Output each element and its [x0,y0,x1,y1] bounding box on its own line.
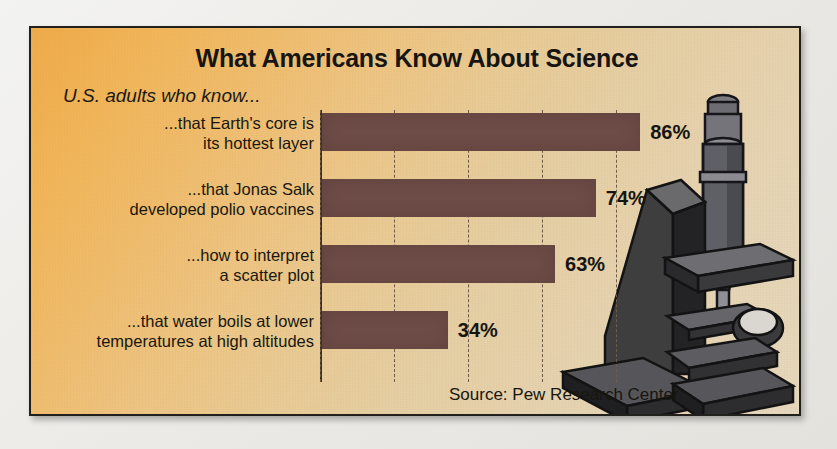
category-label-1-line2: developed polio vaccines [130,200,314,218]
bar-value-3: 34% [458,311,498,349]
chart-title: What Americans Know About Science [31,44,801,73]
plot-area: 86% 74% 63% 34% [320,110,700,382]
bar-3 [322,311,448,349]
bar-0 [322,113,640,151]
category-label-3: ...that water boils at lower temperature… [54,311,314,351]
category-label-1: ...that Jonas Salk developed polio vacci… [54,179,314,219]
category-label-0-line1: ...that Earth's core is [164,114,314,132]
bar-value-0: 86% [650,113,690,151]
bar-1 [322,179,596,217]
bar-value-2: 63% [565,245,605,283]
category-label-0: ...that Earth's core is its hottest laye… [54,113,314,153]
category-label-1-line1: ...that Jonas Salk [187,180,314,198]
category-label-column: ...that Earth's core is its hottest laye… [49,110,314,382]
chart-subtitle: U.S. adults who know... [63,85,261,107]
bar-value-1: 74% [606,179,646,217]
category-label-2-line1: ...how to interpret [187,246,314,264]
bar-2 [322,245,555,283]
infographic-panel: What Americans Know About Science U.S. a… [29,26,801,416]
category-label-3-line2: temperatures at high altitudes [97,332,314,350]
gridline-0 [320,110,321,382]
category-label-3-line1: ...that water boils at lower [127,312,314,330]
category-label-2-line2: a scatter plot [220,266,314,284]
category-label-0-line2: its hottest layer [203,134,314,152]
category-label-2: ...how to interpret a scatter plot [54,245,314,285]
source-credit: Source: Pew Research Center [449,385,679,405]
